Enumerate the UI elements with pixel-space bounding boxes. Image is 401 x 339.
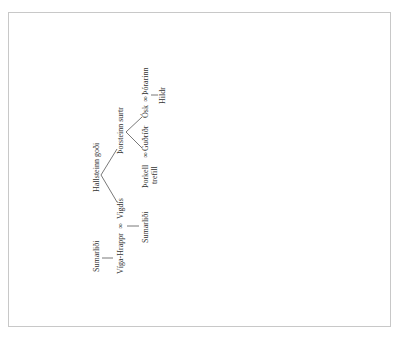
node-thorkell-epithet: trefill <box>150 166 159 184</box>
node-thorkell: Þorkell <box>141 165 150 188</box>
node-osk: Ósk <box>141 105 150 118</box>
marriage-symbol: ∞ <box>141 152 150 158</box>
edge-hallsteinn-vigdis <box>101 175 117 202</box>
node-thorarinn: Þórarinn <box>141 67 150 95</box>
node-sumarlidi-1: Sumarliði <box>92 240 101 272</box>
marriage-symbol: ∞ <box>141 96 150 102</box>
node-gudridr: Guðríðr <box>141 126 150 151</box>
node-vigdis: Vigdís <box>116 198 125 219</box>
edge-thorsteinn-gudridr <box>126 132 142 148</box>
edge-thorsteinn-osk <box>126 117 142 132</box>
tree-connectors <box>0 0 401 339</box>
node-thorsteinn: Þorsteinn surtr <box>116 107 125 154</box>
node-sumarlidi-2: Sumarliði <box>141 211 150 243</box>
marriage-symbol: ∞ <box>116 223 125 229</box>
edge-hallsteinn-thorsteinn <box>101 149 117 175</box>
node-hildr: Hildr <box>158 87 167 104</box>
node-viga-hrappr: Víga-Hrappr <box>116 233 125 274</box>
node-hallsteinn: Hallsteinn goði <box>92 143 101 192</box>
